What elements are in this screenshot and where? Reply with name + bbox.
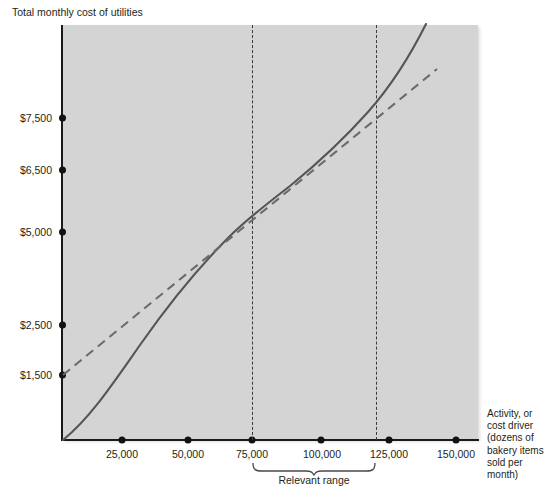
x-tick-label-50000: 50,000 <box>172 448 204 460</box>
x-tick-label-75000: 75,000 <box>236 448 268 460</box>
y-tick-dot-6500 <box>59 167 66 174</box>
x-tick-label-100000: 100,000 <box>303 448 341 460</box>
x-tick-dot-25000 <box>119 437 126 444</box>
x-tick-label-25000: 25,000 <box>106 448 138 460</box>
y-tick-dot-7500 <box>59 115 66 122</box>
y-tick-label-5000: $5,000 <box>20 226 52 238</box>
y-tick-label-7500: $7,500 <box>20 112 52 124</box>
relevant-range-line-upper <box>376 25 377 440</box>
x-tick-dot-50000 <box>185 437 192 444</box>
relevant-range-label: Relevant range <box>278 474 349 486</box>
y-tick-dot-5000 <box>59 229 66 236</box>
y-tick-label-1500: $1,500 <box>20 369 52 381</box>
plot-area-background <box>63 25 478 440</box>
x-axis-caption: Activity, or cost driver (dozens of bake… <box>487 408 549 481</box>
x-tick-label-150000: 150,000 <box>437 448 475 460</box>
y-tick-label-6500: $6,500 <box>20 164 52 176</box>
utilities-cost-chart: Total monthly cost of utilities $7,500 $… <box>0 0 549 491</box>
y-tick-dot-2500 <box>59 322 66 329</box>
x-tick-dot-125000 <box>386 437 393 444</box>
chart-title: Total monthly cost of utilities <box>12 6 143 19</box>
relevant-range-line-lower <box>252 25 253 440</box>
x-tick-label-125000: 125,000 <box>370 448 408 460</box>
y-tick-label-2500: $2,500 <box>20 319 52 331</box>
x-tick-dot-150000 <box>453 437 460 444</box>
y-tick-dot-1500 <box>59 372 66 379</box>
x-tick-dot-100000 <box>318 437 325 444</box>
